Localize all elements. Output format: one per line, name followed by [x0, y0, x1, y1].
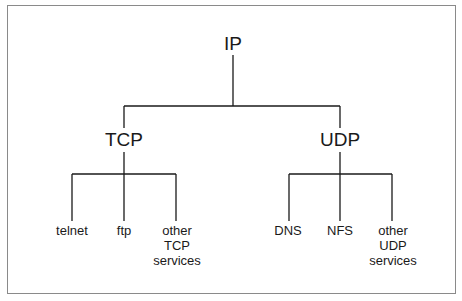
- node-other-tcp-line-2: TCP: [153, 238, 201, 253]
- node-other-udp-services: other UDP services: [369, 223, 417, 268]
- node-other-udp-line-2: UDP: [369, 238, 417, 253]
- node-dns: DNS: [274, 223, 301, 238]
- node-other-udp-line-3: services: [369, 253, 417, 268]
- node-other-udp-line-1: other: [369, 223, 417, 238]
- node-other-tcp-services: other TCP services: [153, 223, 201, 268]
- node-tcp: TCP: [105, 130, 143, 150]
- node-udp: UDP: [320, 130, 360, 150]
- node-ip: IP: [224, 34, 242, 54]
- node-other-tcp-line-1: other: [153, 223, 201, 238]
- node-other-tcp-line-3: services: [153, 253, 201, 268]
- node-telnet: telnet: [56, 223, 88, 238]
- node-nfs: NFS: [327, 223, 353, 238]
- node-ftp: ftp: [117, 223, 131, 238]
